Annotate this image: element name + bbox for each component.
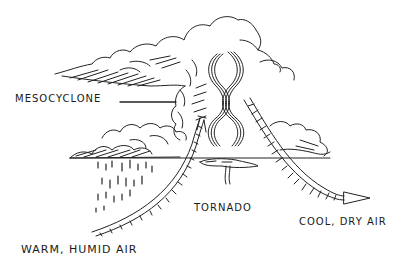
warm-air-arrow (92, 116, 206, 236)
tornado-funnel (208, 52, 244, 146)
storm-diagram (0, 0, 406, 270)
label-mesocyclone: MESOCYCLONE (15, 93, 101, 104)
mesocyclone-cloud (70, 60, 206, 158)
label-cool-dry-air: COOL, DRY AIR (299, 216, 387, 227)
label-warm-humid-air: WARM, HUMID AIR (21, 243, 137, 256)
label-tornado: TORNADO (194, 202, 252, 213)
anvil-cloud (55, 17, 281, 86)
tornado-ground (200, 159, 258, 184)
rain-streaks (96, 160, 152, 212)
